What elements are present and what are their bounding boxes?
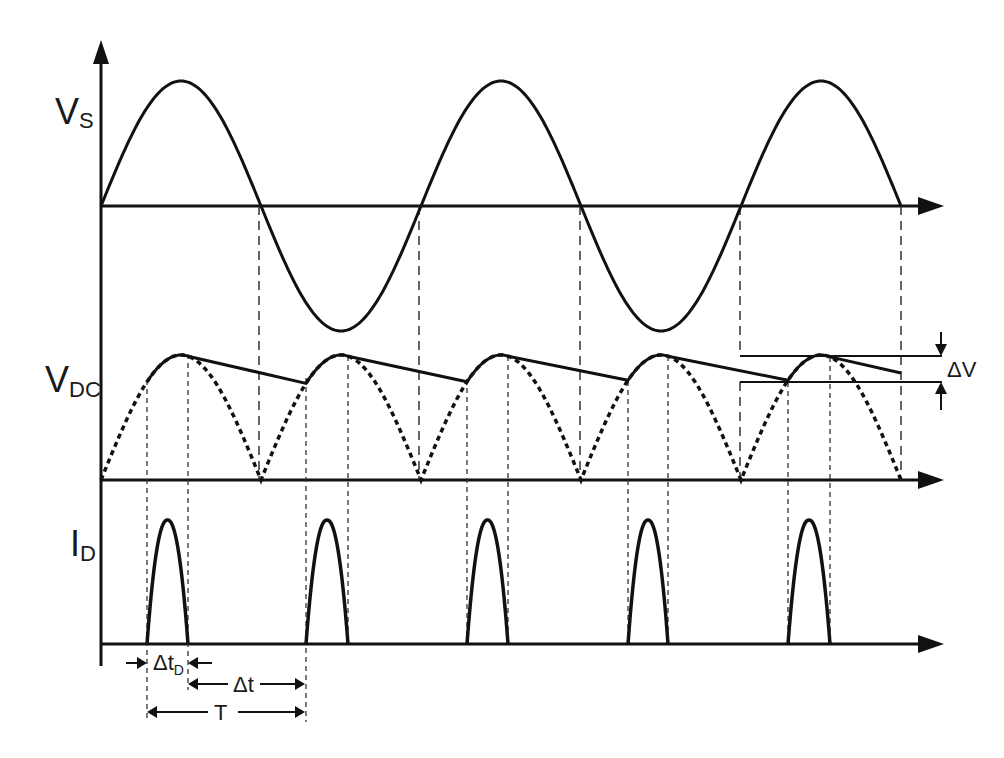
delta-v-label: ΔV — [947, 357, 977, 382]
arrow-right-icon — [295, 706, 305, 718]
rectifier-waveform-diagram: ΔV ΔtD Δt T VS VDC ID — [0, 0, 1004, 758]
period-label: T — [214, 700, 227, 725]
id-axis-arrow-icon — [918, 635, 944, 653]
vs-label: VS — [55, 91, 94, 133]
delta-td-label: ΔtD — [153, 650, 184, 678]
arrow-down-icon — [935, 344, 947, 356]
charging-interval-guides — [147, 354, 830, 722]
id-label: ID — [70, 523, 96, 566]
vdc-rectified-dotted-wave — [101, 355, 901, 480]
vdc-label: VDC — [45, 359, 101, 402]
arrow-right-icon — [295, 678, 305, 690]
arrow-up-icon — [935, 382, 947, 394]
vs-axis-arrow-icon — [918, 197, 944, 215]
delta-t-label: Δt — [233, 672, 254, 697]
arrow-right-icon — [137, 657, 147, 669]
arrow-left-icon — [188, 678, 198, 690]
vdc-axis-arrow-icon — [918, 471, 944, 489]
diode-current-pulses — [147, 520, 830, 644]
arrow-left-icon — [147, 706, 157, 718]
delta-v-annotation — [740, 332, 947, 410]
arrow-left-icon — [188, 657, 198, 669]
axes — [93, 40, 944, 666]
zero-crossing-guides — [259, 206, 901, 480]
y-axis-arrow-icon — [93, 40, 109, 64]
